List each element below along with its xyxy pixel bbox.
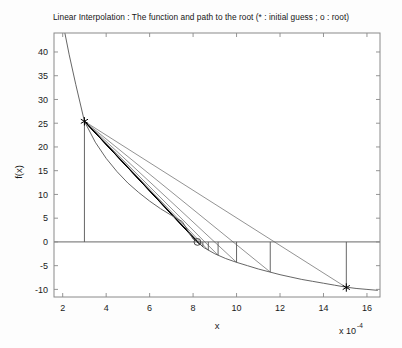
x-axis-exponent-power: -4	[357, 322, 363, 329]
y-tick-label: 30	[38, 95, 48, 105]
y-tick-label: 10	[38, 190, 48, 200]
y-axis-label: f(x)	[13, 165, 24, 179]
x-tick-label: 8	[191, 303, 196, 313]
y-tick-label: -5	[40, 261, 48, 271]
plot-area: 246810121416-10-50510152025303540 x f(x)…	[0, 0, 402, 348]
figure-canvas: Linear Interpolation : The function and …	[0, 0, 402, 348]
x-axis-label: x	[215, 320, 220, 331]
x-tick-label: 14	[318, 303, 328, 313]
y-tick-label: 5	[43, 213, 48, 223]
y-tick-label: 20	[38, 142, 48, 152]
y-tick-label: 15	[38, 166, 48, 176]
y-tick-label: -10	[35, 285, 48, 295]
x-tick-label: 12	[275, 303, 285, 313]
x-tick-label: 10	[232, 303, 242, 313]
y-tick-label: 35	[38, 71, 48, 81]
x-tick-label: 6	[147, 303, 152, 313]
y-tick-label: 40	[38, 47, 48, 57]
x-tick-label: 4	[104, 303, 109, 313]
y-tick-label: 0	[43, 237, 48, 247]
plot-background	[54, 33, 380, 297]
x-axis-exponent-prefix: x 10	[339, 326, 356, 336]
x-tick-label: 2	[60, 303, 65, 313]
y-tick-label: 25	[38, 119, 48, 129]
x-tick-label: 16	[362, 303, 372, 313]
